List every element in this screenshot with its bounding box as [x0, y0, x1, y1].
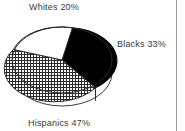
- pie-label-hispanics: Hispanics 47%: [28, 118, 90, 129]
- pie-label-blacks: Blacks 33%: [117, 39, 166, 50]
- pie-chart-figure: Whites 20% Blacks 33% Hispanics 47%: [0, 0, 185, 131]
- pie-chart-graphic: [0, 0, 185, 131]
- pie-label-whites: Whites 20%: [29, 2, 79, 13]
- page-frame-rule: [176, 0, 177, 131]
